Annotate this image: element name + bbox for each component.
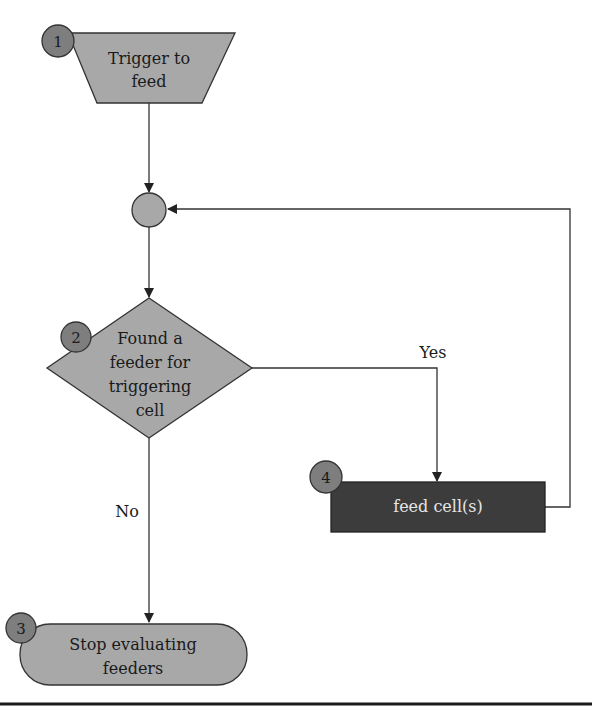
node-decision-found-feeder[interactable]: Found a feeder for triggering cell [47,298,252,438]
badge-3: 3 [6,613,36,643]
node-2-line-4: cell [136,401,165,420]
badge-2: 2 [61,322,91,352]
node-connector[interactable] [132,193,166,227]
node-1-line-1: Trigger to [108,49,190,68]
node-3-line-1: Stop evaluating [69,635,196,654]
node-1-line-2: feed [131,72,166,91]
node-4-line-1: feed cell(s) [393,497,483,516]
svg-text:3: 3 [16,620,26,638]
edge-yes-to-feed [252,368,437,481]
svg-text:2: 2 [71,329,81,347]
edge-label-yes: Yes [419,343,447,362]
node-3-line-2: feeders [103,659,163,678]
svg-text:1: 1 [53,33,63,51]
flowchart-canvas: Trigger to feed 1 Found a feeder for tri… [0,0,592,709]
node-2-line-1: Found a [117,329,183,348]
svg-text:4: 4 [321,469,331,487]
node-2-line-2: feeder for [110,353,191,372]
edge-label-no: No [115,502,139,521]
node-stop-evaluating[interactable]: Stop evaluating feeders [20,624,247,685]
node-feed-cells[interactable]: feed cell(s) [331,482,545,532]
badge-4: 4 [310,461,342,493]
node-2-line-3: triggering [109,377,191,396]
badge-1: 1 [42,25,74,57]
node-trigger-to-feed[interactable]: Trigger to feed [68,33,235,103]
